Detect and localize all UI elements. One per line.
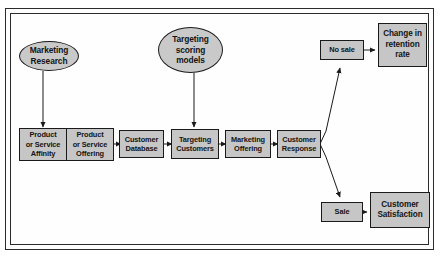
node-targeting-customers-line-1: Targeting — [176, 135, 214, 144]
ellipse-targeting-scoring-models-line-2: scoring — [172, 45, 209, 56]
node-product-or-service-offering-line-3: Offering — [73, 149, 108, 158]
diagram-canvas: Marketing Research Targeting scoring mod… — [0, 0, 444, 268]
node-no-sale-label: No sale — [329, 45, 355, 54]
node-change-in-retention-rate-line-3: rate — [383, 50, 422, 60]
node-customer-database-line-2: Database — [125, 144, 159, 153]
ellipse-targeting-scoring-models-line-1: Targeting — [172, 34, 209, 45]
node-targeting-customers[interactable]: Targeting Customers — [171, 129, 219, 159]
node-customer-database[interactable]: Customer Database — [119, 130, 164, 158]
node-marketing-offering-line-1: Marketing — [231, 135, 265, 144]
ellipse-marketing-research-line-1: Marketing — [30, 45, 69, 56]
node-product-or-service-affinity-line-3: Affinity — [26, 149, 61, 158]
node-product-or-service-offering[interactable]: Product or Service Offering — [66, 128, 114, 161]
node-customer-response-line-2: Response — [282, 144, 317, 153]
node-change-in-retention-rate[interactable]: Change in retention rate — [378, 23, 427, 67]
node-no-sale[interactable]: No sale — [320, 40, 364, 60]
node-change-in-retention-rate-line-2: retention — [383, 40, 422, 50]
node-product-or-service-affinity[interactable]: Product or Service Affinity — [19, 128, 67, 161]
node-marketing-offering-line-2: Offering — [231, 144, 265, 153]
node-targeting-customers-line-2: Customers — [176, 144, 214, 153]
node-customer-satisfaction-line-2: Satisfaction — [377, 210, 422, 220]
node-customer-database-line-1: Customer — [125, 135, 159, 144]
node-product-or-service-affinity-line-2: or Service — [26, 140, 61, 149]
node-customer-satisfaction[interactable]: Customer Satisfaction — [370, 192, 430, 228]
ellipse-targeting-scoring-models-line-3: models — [172, 55, 209, 66]
ellipse-marketing-research[interactable]: Marketing Research — [19, 41, 79, 71]
node-sale[interactable]: Sale — [321, 202, 363, 222]
ellipse-targeting-scoring-models[interactable]: Targeting scoring models — [158, 27, 223, 73]
node-product-or-service-offering-line-1: Product — [73, 130, 108, 139]
node-sale-label: Sale — [335, 207, 350, 216]
ellipse-marketing-research-line-2: Research — [30, 56, 69, 67]
node-marketing-offering[interactable]: Marketing Offering — [225, 130, 271, 158]
node-customer-response-line-1: Customer — [282, 135, 317, 144]
node-customer-satisfaction-line-1: Customer — [377, 200, 422, 210]
node-product-or-service-affinity-line-1: Product — [26, 130, 61, 139]
node-change-in-retention-rate-line-1: Change in — [383, 29, 422, 39]
node-customer-response[interactable]: Customer Response — [277, 130, 321, 158]
node-product-or-service-offering-line-2: or Service — [73, 140, 108, 149]
